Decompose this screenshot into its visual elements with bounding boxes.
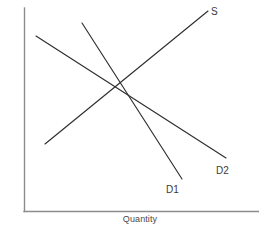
chart-canvas (0, 0, 259, 229)
curve-label-supply: S (211, 6, 218, 17)
x-axis-title: Quantity (95, 214, 185, 224)
curve-label-demand-shifted: D2 (216, 165, 229, 176)
curve-label-demand-original: D1 (166, 184, 179, 195)
plot-background (0, 0, 259, 229)
supply-demand-chart: S D1 D2 Price Quantity (0, 0, 259, 229)
